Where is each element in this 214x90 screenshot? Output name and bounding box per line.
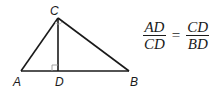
point-label-b: B: [130, 76, 138, 88]
side-cb: [58, 18, 129, 71]
denominator-left: CD: [143, 37, 166, 51]
proportion-formula: AD CD = CD BD: [143, 20, 209, 51]
fraction-left: AD CD: [143, 20, 166, 51]
numerator-right: CD: [186, 20, 209, 34]
right-angle-mark: [52, 65, 58, 71]
point-label-c: C: [50, 5, 59, 17]
equals-sign: =: [172, 27, 180, 44]
point-label-d: D: [55, 76, 64, 88]
point-label-a: A: [13, 76, 21, 88]
fraction-right: CD BD: [186, 20, 209, 51]
denominator-right: BD: [187, 37, 209, 51]
side-ca: [21, 18, 58, 71]
numerator-left: AD: [143, 20, 165, 34]
